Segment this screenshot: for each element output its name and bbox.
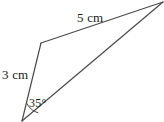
geometry-figure: 5 cm 3 cm 35° [0,0,164,122]
angle-measure-label: 35° [29,97,46,109]
side-length-label-top: 5 cm [77,11,103,24]
side-length-label-left: 3 cm [2,68,28,81]
